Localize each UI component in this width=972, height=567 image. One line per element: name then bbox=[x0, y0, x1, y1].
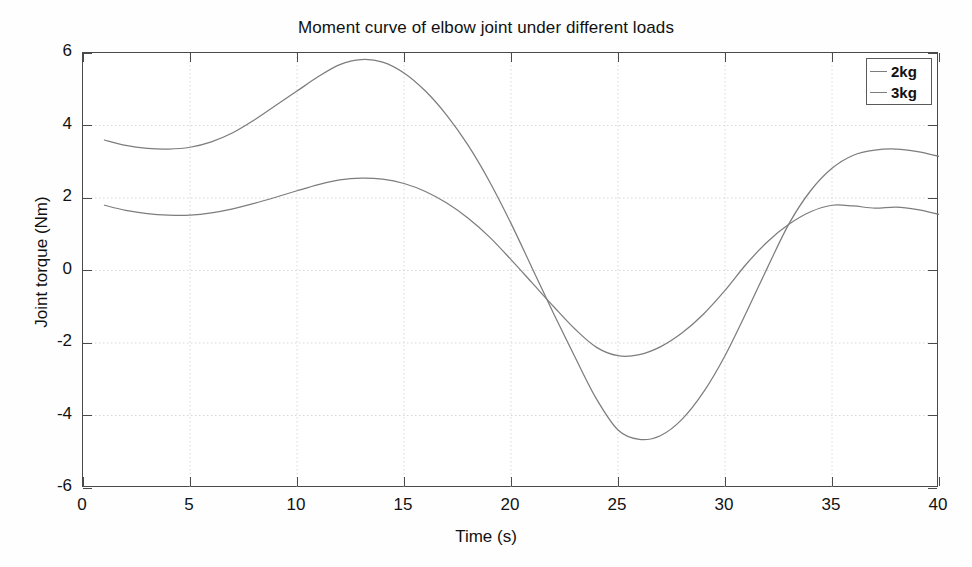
x-tick-mark bbox=[939, 477, 940, 486]
x-tick-label: 15 bbox=[378, 495, 428, 515]
x-tick-label: 35 bbox=[806, 495, 856, 515]
y-tick-mark bbox=[83, 198, 92, 199]
y-tick-label: 6 bbox=[32, 41, 72, 61]
legend[interactable]: 2kg3kg bbox=[866, 58, 932, 105]
x-axis-title: Time (s) bbox=[0, 527, 972, 547]
y-tick-mark bbox=[83, 415, 92, 416]
y-axis-title: Joint torque (Nm) bbox=[32, 72, 52, 452]
y-tick-mark bbox=[83, 270, 92, 271]
x-tick-mark bbox=[618, 477, 619, 486]
y-tick-label: -6 bbox=[32, 476, 72, 496]
legend-label: 2kg bbox=[891, 64, 917, 79]
y-tick-mark bbox=[83, 125, 92, 126]
series-line-2kg bbox=[104, 178, 939, 356]
plot-area bbox=[82, 52, 938, 487]
legend-line-swatch bbox=[870, 92, 887, 93]
legend-line-swatch bbox=[870, 71, 887, 72]
y-tick-mark bbox=[928, 125, 937, 126]
gridlines bbox=[83, 53, 939, 488]
x-tick-label: 40 bbox=[913, 495, 963, 515]
x-tick-label: 10 bbox=[271, 495, 321, 515]
x-tick-mark bbox=[832, 53, 833, 62]
x-tick-label: 30 bbox=[699, 495, 749, 515]
y-tick-mark bbox=[928, 270, 937, 271]
x-tick-mark bbox=[190, 477, 191, 486]
x-tick-mark bbox=[725, 53, 726, 62]
y-tick-mark bbox=[83, 343, 92, 344]
figure-canvas: Moment curve of elbow joint under differ… bbox=[0, 0, 972, 567]
x-tick-mark bbox=[297, 477, 298, 486]
plot-svg bbox=[83, 53, 939, 488]
y-tick-mark bbox=[928, 415, 937, 416]
x-tick-label: 25 bbox=[592, 495, 642, 515]
series-line-3kg bbox=[104, 59, 939, 439]
y-tick-mark bbox=[83, 488, 92, 489]
x-tick-label: 20 bbox=[485, 495, 535, 515]
legend-entry-2kg[interactable]: 2kg bbox=[867, 61, 931, 82]
y-tick-mark bbox=[928, 343, 937, 344]
x-tick-mark bbox=[832, 477, 833, 486]
x-tick-mark bbox=[618, 53, 619, 62]
y-tick-mark bbox=[928, 53, 937, 54]
x-tick-mark bbox=[404, 53, 405, 62]
y-tick-mark bbox=[928, 198, 937, 199]
x-tick-mark bbox=[83, 53, 84, 62]
x-tick-mark bbox=[404, 477, 405, 486]
x-tick-mark bbox=[190, 53, 191, 62]
x-tick-mark bbox=[511, 53, 512, 62]
series-lines bbox=[104, 59, 939, 439]
x-tick-mark bbox=[725, 477, 726, 486]
y-tick-mark bbox=[83, 53, 92, 54]
y-tick-mark bbox=[928, 488, 937, 489]
x-tick-label: 5 bbox=[164, 495, 214, 515]
x-tick-mark bbox=[297, 53, 298, 62]
legend-entry-3kg[interactable]: 3kg bbox=[867, 82, 931, 103]
x-tick-label: 0 bbox=[57, 495, 107, 515]
x-tick-mark bbox=[83, 477, 84, 486]
x-tick-mark bbox=[939, 53, 940, 62]
legend-label: 3kg bbox=[891, 85, 917, 100]
chart-title: Moment curve of elbow joint under differ… bbox=[0, 18, 972, 38]
x-tick-mark bbox=[511, 477, 512, 486]
